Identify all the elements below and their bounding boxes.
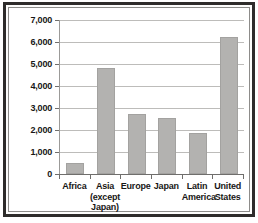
x-axis-category-label-line: Japan [151, 181, 182, 192]
bars-group [60, 20, 244, 174]
x-axis-category-label: UnitedStates [212, 181, 243, 202]
x-axis-tick-mark-origin [59, 174, 60, 179]
x-axis-category-label-line: States [212, 192, 243, 203]
x-axis-category-label: Asia(exceptJapan) [90, 181, 121, 213]
y-axis-tick-mark [55, 64, 59, 65]
y-axis-tick-label: 0 [0, 169, 52, 179]
y-axis-tick-label: 7,000 [0, 15, 52, 25]
plot-wrapper: 01,0002,0003,0004,0005,0006,0007,000 Afr… [0, 0, 258, 223]
x-axis-category-label-line: Europe [120, 181, 151, 192]
x-axis-tick-mark [182, 174, 183, 179]
bar-chart-figure: 01,0002,0003,0004,0005,0006,0007,000 Afr… [0, 0, 258, 223]
x-axis-category-label-line: Asia [90, 181, 121, 192]
x-axis-category-label-line: America [182, 192, 213, 203]
y-axis-tick-mark [55, 42, 59, 43]
x-axis-tick-mark [243, 174, 244, 179]
x-axis-category-label-line: United [212, 181, 243, 192]
plot-area [59, 20, 243, 174]
bar [97, 68, 115, 174]
bar [220, 37, 238, 175]
x-axis-category-label: Africa [59, 181, 90, 192]
y-axis-tick-label: 6,000 [0, 37, 52, 47]
y-axis-tick-label: 3,000 [0, 103, 52, 113]
bar [128, 114, 146, 175]
bar [189, 133, 207, 174]
x-axis-category-label: Japan [151, 181, 182, 192]
y-axis-tick-mark [55, 130, 59, 131]
x-axis-tick-mark [151, 174, 152, 179]
y-axis-tick-mark [55, 152, 59, 153]
x-axis-category-label: Europe [120, 181, 151, 192]
bar [158, 118, 176, 174]
y-axis-tick-mark [55, 108, 59, 109]
y-axis-tick-mark [55, 86, 59, 87]
x-axis-tick-mark [212, 174, 213, 179]
x-axis-category-label-line: Latin [182, 181, 213, 192]
y-axis-tick-label: 2,000 [0, 125, 52, 135]
gridline-0 [60, 174, 244, 175]
x-axis-category-label: LatinAmerica [182, 181, 213, 202]
x-axis-tick-mark [120, 174, 121, 179]
bar [66, 163, 84, 174]
y-axis-tick-label: 5,000 [0, 59, 52, 69]
x-axis-labels-group: AfricaAsia(exceptJapan)EuropeJapanLatinA… [59, 181, 243, 219]
y-axis-tick-mark [55, 20, 59, 21]
x-axis-category-label-line: Africa [59, 181, 90, 192]
y-axis-tick-label: 1,000 [0, 147, 52, 157]
x-axis-tick-mark [90, 174, 91, 179]
x-axis-category-label-line: (except [90, 192, 121, 203]
x-axis-category-label-line: Japan) [90, 202, 121, 213]
y-axis-tick-label: 4,000 [0, 81, 52, 91]
